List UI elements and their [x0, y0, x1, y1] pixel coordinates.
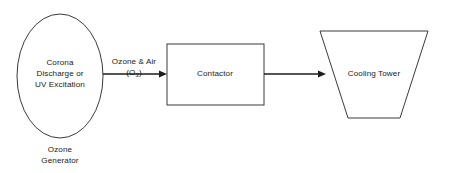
ozone-generator-label-line-2: Discharge or — [35, 68, 85, 79]
stream-label-formula-prefix: (O — [126, 69, 135, 78]
ozone-generator-caption-line-2: Generator — [41, 155, 78, 166]
ozone-generator-caption: Ozone Generator — [41, 144, 78, 166]
stream-label-line-1: Ozone & Air — [112, 56, 156, 67]
ozone-generator-caption-line-1: Ozone — [41, 144, 78, 155]
ozone-generator-label: Corona Discharge or UV Excitation — [35, 57, 85, 91]
stream-label-formula-suffix: ) — [139, 69, 142, 78]
ozone-generator-label-line-1: Corona — [35, 57, 85, 68]
process-flow-diagram: Corona Discharge or UV Excitation Ozone … — [0, 0, 452, 173]
ozone-generator-label-line-3: UV Excitation — [35, 80, 85, 91]
stream-label-ozone-air: Ozone & Air (O3) — [112, 56, 156, 79]
stream-label-formula-subscript: 3 — [135, 73, 138, 79]
contactor-label: Contactor — [197, 68, 233, 79]
stream-label-line-2: (O3) — [112, 68, 156, 80]
connector-contactor-to-cooling-tower[interactable] — [264, 70, 326, 77]
cooling-tower-label: Cooling Tower — [348, 68, 400, 79]
